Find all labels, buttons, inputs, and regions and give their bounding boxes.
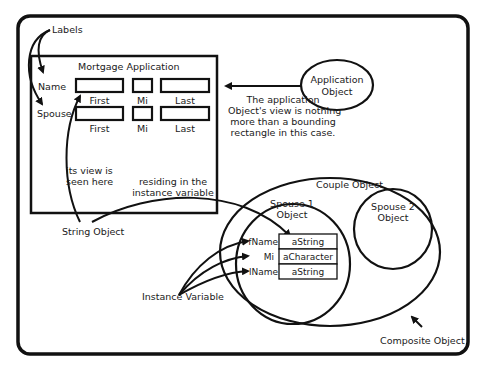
ivar-value-lname: aString [279,267,337,278]
mi-label-2: Mi [133,123,152,134]
residing-note-2: instance variable [130,187,216,198]
first-label: First [76,95,123,106]
name-label: Name [38,81,66,92]
composite-object-label: Composite Object [380,335,465,346]
last-label-2: Last [161,123,209,134]
labels-callout: Labels [52,24,83,35]
spouse1-line2: Object [263,209,321,220]
application-note-4: rectangle in this case. [228,127,338,138]
instance-variable-label: Instance Variable [142,291,224,302]
ivar-name-mi: Mi [248,252,274,263]
application-object-line1: Application [301,74,373,85]
last-label: Last [161,95,209,106]
spouse2-line1: Spouse 2 [364,201,422,212]
form-title: Mortgage Application [78,61,179,72]
ivar-name-fname: fName [248,237,278,248]
spouse2-line2: Object [364,212,422,223]
ivar-value-mi: aCharacter [279,252,337,263]
spouse-label: Spouse [37,108,72,119]
application-note-1: The application [228,94,338,105]
ivar-name-lname: lName [248,267,278,278]
couple-object-label: Couple Object [316,179,383,190]
view-note-2: seen here [66,176,113,187]
ivar-value-fname: aString [279,237,337,248]
first-label-2: First [76,123,123,134]
mi-label: Mi [133,95,152,106]
spouse1-line1: Spouse 1 [263,198,321,209]
application-note-2: Object's view is nothing [228,105,338,116]
string-object-label: String Object [62,226,124,237]
application-note-3: more than a bounding [228,116,338,127]
view-note-1: its view is [66,165,113,176]
residing-note-1: residing in the [130,176,216,187]
